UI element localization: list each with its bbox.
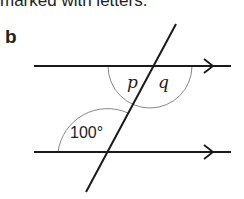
angle-label-p: p [127, 72, 138, 92]
angle-label-q: q [158, 72, 169, 92]
angle-diagram: p q 100° [0, 0, 244, 199]
angle-label-100: 100° [70, 124, 103, 141]
transversal-line [86, 24, 176, 192]
